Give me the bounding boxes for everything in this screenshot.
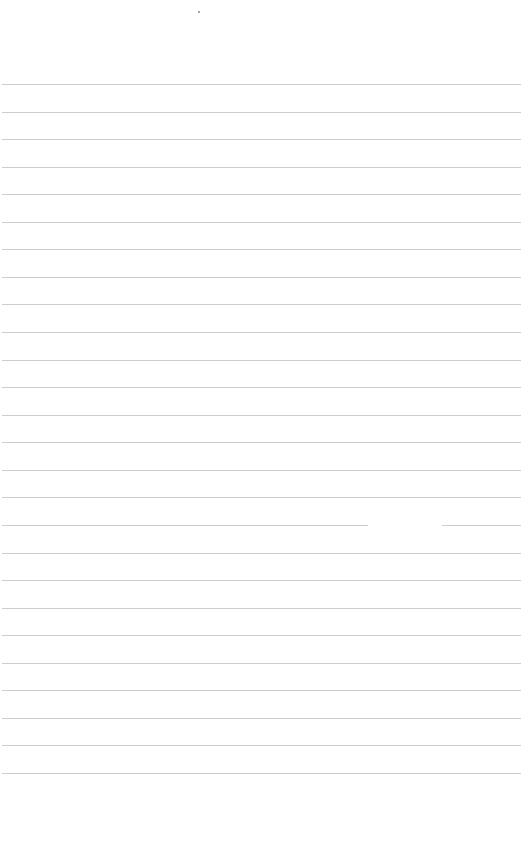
ruled-line <box>2 277 521 278</box>
ruled-line <box>2 304 521 305</box>
ruled-line <box>2 497 521 498</box>
ruled-line <box>2 139 521 140</box>
ruled-line <box>2 387 521 388</box>
ruled-line <box>2 470 521 471</box>
ruled-line <box>2 222 521 223</box>
ruled-line <box>2 332 521 333</box>
ruled-line <box>2 718 521 719</box>
ruled-line <box>2 553 521 554</box>
lined-paper-page <box>0 0 525 862</box>
ruled-line <box>2 525 521 526</box>
ruled-line <box>2 249 521 250</box>
ruled-line <box>2 167 521 168</box>
ruled-line <box>2 415 521 416</box>
ruled-line <box>2 112 521 113</box>
ruled-line <box>2 773 521 774</box>
ruled-line <box>2 580 521 581</box>
ruled-line <box>2 635 521 636</box>
ruled-line <box>2 442 521 443</box>
ruled-line <box>2 360 521 361</box>
top-dot-mark <box>198 11 200 13</box>
ruled-line <box>2 690 521 691</box>
ruled-line <box>2 745 521 746</box>
ruled-line <box>2 608 521 609</box>
ruled-line <box>2 663 521 664</box>
ruled-line <box>2 84 521 85</box>
ruled-line <box>2 194 521 195</box>
